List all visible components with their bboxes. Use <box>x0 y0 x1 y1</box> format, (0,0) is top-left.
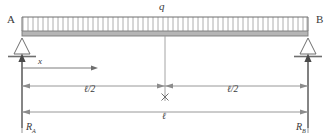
half-span-label-right: ℓ/2 <box>227 85 238 95</box>
half-span-label-left: ℓ/2 <box>84 85 95 95</box>
beam-diagram: q A B x ℓ/2 ℓ/2 ℓ RA RB <box>0 0 330 138</box>
axis-x-label: x <box>38 57 42 66</box>
load-label: q <box>159 1 165 12</box>
full-span-label: ℓ <box>162 112 166 122</box>
reaction-label-a-subscript: A <box>32 127 36 134</box>
node-label-b: B <box>316 14 323 25</box>
distributed-load-hatching <box>23 17 307 31</box>
node-label-a: A <box>7 14 15 25</box>
beam <box>22 31 308 36</box>
axis-x-arrow <box>22 65 98 70</box>
reaction-label-b-subscript: B <box>302 127 306 134</box>
reaction-label-b: RB <box>296 122 306 134</box>
reaction-label-a: RA <box>26 122 36 134</box>
